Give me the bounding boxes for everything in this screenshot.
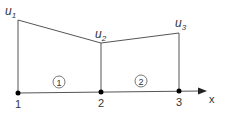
element-1-label: 1 bbox=[56, 78, 61, 88]
x-axis-arrow-icon bbox=[198, 88, 207, 95]
node-1-label: 1 bbox=[15, 98, 21, 110]
u1-label: u1 bbox=[5, 4, 16, 20]
node-2-dot bbox=[99, 90, 104, 95]
finite-element-diagram: 1 2 3 u1 u2 u3 1 2 x bbox=[0, 0, 225, 113]
node-3-label: 3 bbox=[176, 96, 182, 108]
node-2-label: 2 bbox=[98, 97, 104, 109]
u3-label: u3 bbox=[175, 16, 187, 32]
x-axis-label: x bbox=[209, 93, 215, 105]
node-3-dot bbox=[177, 89, 182, 94]
element-2-label: 2 bbox=[138, 77, 143, 87]
node-1-dot bbox=[16, 91, 21, 96]
u2-label: u2 bbox=[95, 27, 107, 43]
x-axis-line bbox=[18, 91, 200, 93]
